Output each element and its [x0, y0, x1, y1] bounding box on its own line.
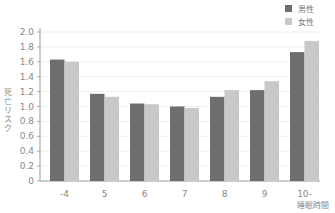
x-tick-label: 7 [182, 189, 188, 199]
y-tick-label: 0.8 [20, 116, 35, 126]
bar-female [225, 90, 240, 181]
bar-female [305, 41, 320, 181]
y-tick-label: 0.4 [20, 146, 35, 156]
y-tick-label: 0 [28, 176, 34, 186]
y-tick-label: 0.2 [20, 161, 34, 171]
bar-male [210, 97, 225, 181]
bar-male [90, 94, 105, 181]
x-tick-label: 8 [222, 189, 228, 199]
bar-female [265, 81, 280, 181]
bar-chart: 00.20.40.60.81.01.21.41.61.82.0-45678910… [0, 0, 335, 213]
y-tick-label: 1.4 [20, 72, 35, 82]
x-tick-label: 10- [297, 189, 312, 199]
legend-label-male: 男性 [298, 3, 314, 14]
y-tick-label: 1.8 [20, 42, 35, 52]
y-tick-label: 2.0 [20, 27, 35, 37]
bar-female [105, 97, 120, 181]
legend-label-female: 女性 [298, 16, 314, 27]
bar-male [290, 52, 305, 181]
x-tick-label: -4 [60, 189, 69, 199]
bar-male [130, 104, 145, 181]
bar-female [65, 62, 80, 181]
bar-female [145, 104, 160, 181]
bar-female [185, 108, 200, 181]
bar-male [50, 60, 65, 181]
bar-male [170, 107, 185, 182]
legend-item-male: 男性 [285, 2, 314, 15]
legend: 男性 女性 [285, 2, 314, 28]
legend-swatch-female [285, 18, 292, 25]
x-tick-label: 5 [102, 189, 108, 199]
y-tick-label: 0.6 [20, 131, 35, 141]
y-tick-label: 1.0 [20, 102, 35, 112]
bar-male [250, 90, 265, 181]
y-axis-label: 死亡リスク [4, 88, 14, 133]
legend-item-female: 女性 [285, 15, 314, 28]
x-axis-label: 睡眠時間 [297, 199, 329, 210]
y-tick-label: 1.6 [20, 57, 35, 67]
x-tick-label: 6 [142, 189, 148, 199]
x-tick-label: 9 [262, 189, 268, 199]
y-tick-label: 1.2 [20, 87, 34, 97]
legend-swatch-male [285, 5, 292, 12]
